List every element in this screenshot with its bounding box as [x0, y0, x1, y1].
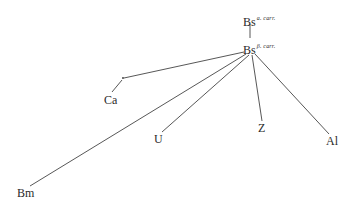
node-al: Al: [326, 135, 338, 147]
edge-bs-b-to-z: [252, 55, 262, 121]
node-bs-beta: Bsβ. carr.: [243, 40, 275, 56]
node-bs-beta-superscript: β. carr.: [257, 43, 276, 49]
node-bm: Bm: [17, 187, 34, 199]
edge-hyparchetype-to-ca: [112, 80, 122, 92]
node-bs-alpha-superscript: a. carr.: [257, 15, 276, 21]
edge-bs-b-to-al: [255, 54, 329, 134]
edge-bs-b-to-hyparchetype: [124, 52, 244, 78]
node-z: Z: [258, 122, 265, 134]
hyparchetype-dot: [122, 77, 124, 79]
node-bs-beta-label: Bs: [243, 43, 256, 57]
node-u: U: [154, 133, 163, 145]
stemma-edges: [0, 0, 357, 210]
node-bs-alpha: Bsa. carr.: [243, 12, 275, 28]
edge-bs-b-to-bm: [30, 54, 246, 186]
node-ca: Ca: [104, 94, 117, 106]
node-bs-alpha-label: Bs: [243, 15, 256, 29]
